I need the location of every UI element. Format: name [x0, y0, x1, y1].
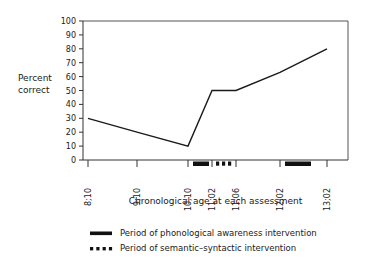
y-tick-label: 20 [66, 128, 76, 137]
y-tick-label: 30 [66, 114, 76, 123]
y-axis-title-line2: correct [18, 85, 50, 95]
legend-label-semantic-syntactic: Period of semantic–syntactic interventio… [120, 243, 296, 253]
y-axis-ticks [79, 21, 83, 160]
phonological-band-1 [193, 162, 209, 167]
y-tick-label: 40 [66, 100, 76, 109]
y-tick-label: 0 [71, 156, 76, 165]
x-tick-label: 8;10 [84, 188, 93, 206]
y-tick-label: 10 [66, 142, 76, 151]
semantic-syntactic-band [216, 162, 231, 166]
chart-figure: 0 10 20 30 40 50 60 70 80 90 100 Percent… [0, 0, 368, 266]
y-axis-tick-labels: 0 10 20 30 40 50 60 70 80 90 100 [61, 17, 76, 165]
legend-marker-solid-bar [90, 232, 112, 236]
x-axis-title: Chronological age at each assessment [129, 196, 303, 206]
legend-label-phonological: Period of phonological awareness interve… [120, 228, 317, 238]
y-tick-label: 60 [66, 73, 76, 82]
y-tick-label: 80 [66, 45, 76, 54]
intervention-bands [193, 162, 311, 167]
line-chart-svg: 0 10 20 30 40 50 60 70 80 90 100 Percent… [0, 0, 368, 266]
y-tick-label: 100 [61, 17, 76, 26]
chart-legend: Period of phonological awareness interve… [90, 228, 317, 253]
phonological-band-2 [285, 162, 311, 167]
y-axis-title: Percent correct [18, 73, 52, 95]
y-axis-title-line1: Percent [18, 73, 52, 83]
y-tick-label: 90 [66, 31, 76, 40]
y-tick-label: 50 [66, 87, 76, 96]
y-tick-label: 70 [66, 59, 76, 68]
percent-correct-series [88, 49, 327, 146]
x-tick-label: 13;02 [323, 188, 332, 211]
legend-marker-dotted-bar [90, 247, 112, 250]
